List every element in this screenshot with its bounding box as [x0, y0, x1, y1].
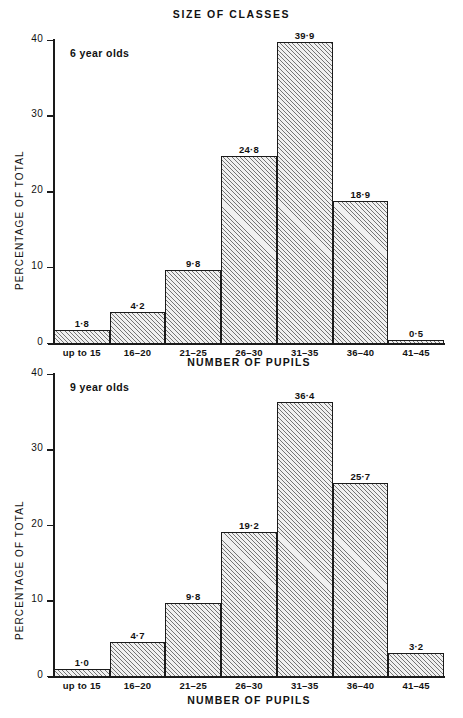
x-axis-category-slot: 31–35 [277, 343, 333, 344]
x-axis-category-slot: 41–45 [388, 676, 444, 677]
y-axis-label-bottom: PERCENTAGE OF TOTAL [14, 500, 25, 640]
x-axis-category-slot: 16–20 [110, 676, 166, 677]
x-axis-category-slot: 26–30 [221, 676, 277, 677]
figure-size-of-classes: SIZE OF CLASSES PERCENTAGE OF TOTAL 6 ye… [0, 0, 463, 718]
bar: 9·8 [165, 603, 221, 677]
bars-group-top: 1·8up to 154·216–209·821–2524·826–3039·9… [54, 41, 444, 344]
bar-value-label: 19·2 [239, 520, 259, 531]
y-axis-tick-10-bottom: 10 [47, 600, 54, 601]
y-axis-tick-label-top: 20 [31, 184, 43, 195]
x-axis-category-slot: 36–40 [333, 343, 389, 344]
y-axis-tick-40-bottom: 40 [47, 374, 54, 375]
bar-value-label: 1·0 [75, 657, 89, 668]
y-axis-label-top: PERCENTAGE OF TOTAL [14, 150, 25, 290]
x-axis-category-label: 16–20 [124, 680, 151, 691]
x-axis-category-slot: 21–25 [165, 343, 221, 344]
bar: 4·2 [110, 312, 166, 344]
bar: 4·7 [110, 642, 166, 677]
bar: 9·8 [165, 270, 221, 344]
y-axis-tick-10-top: 10 [47, 267, 54, 268]
bar: 25·7 [333, 483, 389, 677]
bar-value-label: 36·4 [295, 390, 315, 401]
bar-value-label: 0·5 [409, 328, 423, 339]
y-axis-tick-label-top: 40 [31, 33, 43, 44]
x-axis-category-slot: 21–25 [165, 676, 221, 677]
chart-panel-6-year-olds: PERCENTAGE OF TOTAL 6 year olds 01020304… [0, 0, 463, 360]
y-axis-tick-label-bottom: 20 [31, 518, 43, 529]
x-axis-category-slot: up to 15 [54, 676, 110, 677]
y-axis-tick-label-top: 0 [37, 336, 43, 347]
bar: 24·8 [221, 156, 277, 344]
y-axis-tick-30-top: 30 [47, 115, 54, 116]
x-axis-category-label: 36–40 [347, 680, 374, 691]
y-axis-tick-0-bottom: 0 [47, 676, 54, 677]
x-axis-category-label: 26–30 [235, 680, 262, 691]
bar-value-label: 9·8 [186, 258, 200, 269]
bar-value-label: 3·2 [409, 641, 423, 652]
x-axis-category-label: up to 15 [63, 680, 101, 691]
bar: 1·8 [54, 330, 110, 344]
x-axis-category-label: 21–25 [180, 680, 207, 691]
plot-area-top: 010203040 1·8up to 154·216–209·821–2524·… [54, 41, 444, 344]
plot-area-bottom: 010203040 1·0up to 154·716–209·821–2519·… [54, 375, 444, 677]
y-axis-tick-label-bottom: 10 [31, 593, 43, 604]
x-axis-category-slot: up to 15 [54, 343, 110, 344]
bars-group-bottom: 1·0up to 154·716–209·821–2519·226–3036·4… [54, 375, 444, 677]
x-axis-label-bottom: NUMBER OF PUPILS [54, 694, 444, 706]
x-axis-category-label: 41–45 [402, 680, 429, 691]
bar-value-label: 9·8 [186, 591, 200, 602]
y-axis-tick-label-bottom: 0 [37, 669, 43, 680]
bar-value-label: 1·8 [75, 318, 89, 329]
y-axis-tick-0-top: 0 [47, 343, 54, 344]
bar: 19·2 [221, 532, 277, 677]
x-axis-category-slot: 41–45 [388, 343, 444, 344]
x-axis-category-slot: 16–20 [110, 343, 166, 344]
bar: 18·9 [333, 201, 389, 344]
bar-value-label: 25·7 [350, 471, 370, 482]
y-axis-tick-label-bottom: 40 [31, 367, 43, 378]
y-axis-tick-label-top: 30 [31, 108, 43, 119]
x-axis-category-slot: 36–40 [333, 676, 389, 677]
bar-value-label: 4·7 [130, 630, 144, 641]
y-axis-tick-30-bottom: 30 [47, 449, 54, 450]
y-axis-tick-40-top: 40 [47, 40, 54, 41]
y-axis-tick-label-bottom: 30 [31, 442, 43, 453]
bar-value-label: 4·2 [130, 300, 144, 311]
bar-value-label: 39·9 [295, 30, 315, 41]
y-axis-tick-label-top: 10 [31, 260, 43, 271]
chart-panel-9-year-olds: 9 year olds 010203040 1·0up to 154·716–2… [0, 355, 463, 718]
y-axis-tick-20-bottom: 20 [47, 525, 54, 526]
bar-value-label: 18·9 [350, 189, 370, 200]
x-axis-category-slot: 26–30 [221, 343, 277, 344]
bar: 39·9 [277, 42, 333, 344]
bar: 36·4 [277, 402, 333, 677]
x-axis-category-label: 31–35 [291, 680, 318, 691]
x-axis-category-slot: 31–35 [277, 676, 333, 677]
bar-value-label: 24·8 [239, 144, 259, 155]
bar: 3·2 [388, 653, 444, 677]
y-axis-tick-20-top: 20 [47, 191, 54, 192]
